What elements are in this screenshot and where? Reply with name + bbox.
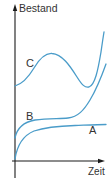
x-axis-arrow-icon [98,159,105,163]
curve-c-label: C [26,58,34,69]
chart-canvas [0,0,109,183]
curve-b-label: B [26,111,33,122]
curve-a-label: A [89,125,96,136]
y-axis-arrow-icon [13,4,17,11]
y-axis-label: Bestand [19,3,58,14]
x-axis-label: Zeit [88,167,105,177]
